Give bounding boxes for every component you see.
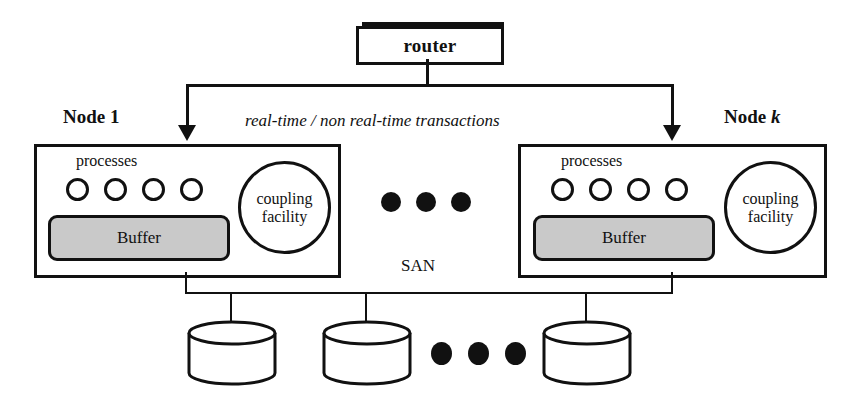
node-1-processes-label: processes xyxy=(76,152,137,170)
disk-ellipsis-dot-1 xyxy=(431,342,452,365)
node-k-san-drop-line xyxy=(671,272,673,294)
disk-icon xyxy=(321,320,413,386)
node-k-buffer-label: Buffer xyxy=(602,228,646,248)
node-1-coupling-line2: facility xyxy=(262,208,307,226)
node-1-process-circle-4 xyxy=(180,178,203,201)
node-k-coupling-line1: coupling xyxy=(743,190,799,208)
node-ellipsis-dot-3 xyxy=(451,192,471,212)
disk-icon xyxy=(186,320,278,386)
node-k-process-circle-2 xyxy=(589,178,612,201)
node-1-buffer-label: Buffer xyxy=(117,228,161,248)
router-stem-line xyxy=(426,59,429,86)
node-ellipsis-dot-1 xyxy=(381,192,401,212)
right-branch-line xyxy=(671,84,674,125)
node-1-process-circle-2 xyxy=(104,178,127,201)
disk-ellipsis-dot-2 xyxy=(468,342,489,365)
node-k-buffer: Buffer xyxy=(533,215,715,261)
node-1-coupling-line1: coupling xyxy=(257,190,313,208)
router-label: router xyxy=(403,35,456,57)
disk-ellipsis-dot-3 xyxy=(505,342,526,365)
node-k-processes-label: processes xyxy=(561,152,622,170)
node-1-title-suffix: 1 xyxy=(110,106,120,127)
node-k-process-circle-4 xyxy=(665,178,688,201)
node-k-title-suffix: k xyxy=(771,106,781,127)
node-ellipsis-dot-2 xyxy=(416,192,436,212)
node-k-process-circle-1 xyxy=(551,178,574,201)
san-label: SAN xyxy=(401,256,435,276)
router-distribution-bus xyxy=(186,84,674,87)
disk-cylinder-3 xyxy=(541,320,633,386)
disk-cylinder-2 xyxy=(321,320,413,386)
node-1-title-prefix: Node xyxy=(63,106,110,127)
node-k-title-prefix: Node xyxy=(724,106,771,127)
node-1-process-circle-3 xyxy=(142,178,165,201)
node-k-coupling-line2: facility xyxy=(748,208,793,226)
node-1-san-drop-line xyxy=(185,272,187,294)
transactions-flow-label: real-time / non real-time transactions xyxy=(245,111,500,131)
left-branch-line xyxy=(186,84,189,125)
san-bus-line xyxy=(185,292,673,294)
node-k-coupling-facility: coupling facility xyxy=(724,161,817,254)
node-1-title: Node 1 xyxy=(63,106,119,128)
left-branch-arrowhead xyxy=(178,125,196,141)
right-branch-arrowhead xyxy=(663,125,681,141)
node-k-title: Node k xyxy=(724,106,780,128)
router-box: router xyxy=(356,26,504,65)
node-1-coupling-facility: coupling facility xyxy=(238,161,331,254)
node-1-process-circle-1 xyxy=(66,178,89,201)
disk-cylinder-1 xyxy=(186,320,278,386)
disk-icon xyxy=(541,320,633,386)
node-1-buffer: Buffer xyxy=(48,215,230,261)
diagram-canvas: router real-time / non real-time transac… xyxy=(0,0,851,409)
node-k-process-circle-3 xyxy=(627,178,650,201)
